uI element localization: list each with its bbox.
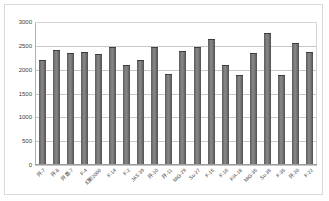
y-axis-tick-label: 3000 (4, 19, 32, 25)
bar[interactable] (292, 43, 299, 165)
bar-slot (134, 22, 148, 165)
y-axis-tick-label: 2000 (4, 67, 32, 73)
bar-slot (218, 22, 232, 165)
bar[interactable] (179, 51, 186, 165)
x-axis-line (35, 164, 317, 165)
x-axis-tick-label: 歼-7 (35, 167, 46, 178)
y-axis-tick-label: 500 (4, 138, 32, 144)
bar-slot (303, 22, 317, 165)
gridline (35, 165, 317, 166)
bar[interactable] (151, 47, 158, 165)
x-axis-tick-label: F/A-18 (229, 167, 244, 182)
y-axis-tick-label: 2500 (4, 43, 32, 49)
x-axis-tick-label: F-35 (274, 167, 286, 179)
y-axis-tick-label: 1000 (4, 114, 32, 120)
bar-slot (176, 22, 190, 165)
bar-series (35, 22, 317, 165)
y-axis-tick-label: 0 (4, 162, 32, 168)
x-axis-tick-label: F-4 (79, 167, 89, 177)
bar[interactable] (306, 52, 313, 165)
x-axis-tick-label: MiG-35 (242, 167, 258, 183)
x-axis-tick-label: 歼-20 (287, 167, 300, 180)
bar-slot (49, 22, 63, 165)
bar-slot (246, 22, 260, 165)
bar[interactable] (81, 52, 88, 165)
bar[interactable] (250, 53, 257, 165)
x-axis-labels: 歼-7歼-8歼轰-7F-4幻影2000F-14F-2JAS 39歼-10歼-11… (35, 167, 317, 201)
x-axis-tick-label: F-14 (105, 167, 117, 179)
bar[interactable] (109, 47, 116, 165)
x-axis-tick-label: JAS 39 (129, 167, 145, 183)
bar-slot (190, 22, 204, 165)
y-axis: 050010001500200025003000 (5, 22, 32, 165)
x-axis-tick-label: F-15 (204, 167, 216, 179)
bar-slot (289, 22, 303, 165)
x-axis-tick-label: 歼轰-7 (60, 167, 74, 181)
bar[interactable] (278, 75, 285, 165)
bar-slot (261, 22, 275, 165)
bar[interactable] (208, 39, 215, 165)
bar[interactable] (236, 75, 243, 165)
bar[interactable] (137, 60, 144, 165)
bar[interactable] (123, 65, 130, 165)
bar[interactable] (53, 50, 60, 165)
y-axis-tick-label: 1500 (4, 91, 32, 97)
x-axis-tick-label: F-2 (121, 167, 131, 177)
x-axis-tick-label: MiG-29 (171, 167, 187, 183)
x-axis-tick-label: 歼-10 (146, 167, 159, 180)
bar[interactable] (95, 54, 102, 165)
bar-slot (35, 22, 49, 165)
bar[interactable] (67, 53, 74, 165)
plot-area (35, 22, 317, 165)
x-axis-tick-label: F-22 (303, 167, 315, 179)
bar-slot (63, 22, 77, 165)
bar-slot (232, 22, 246, 165)
bar-slot (105, 22, 119, 165)
x-axis-tick-label: Su-35 (258, 167, 272, 181)
x-axis-tick-label: Su-27 (188, 167, 202, 181)
bar-slot (148, 22, 162, 165)
bar[interactable] (222, 65, 229, 165)
bar[interactable] (39, 60, 46, 165)
chart-frame: 050010001500200025003000 歼-7歼-8歼轰-7F-4幻影… (4, 4, 323, 195)
bar-slot (77, 22, 91, 165)
bar[interactable] (165, 74, 172, 165)
bar-slot (275, 22, 289, 165)
bar-slot (91, 22, 105, 165)
bar[interactable] (264, 33, 271, 165)
bar-slot (204, 22, 218, 165)
bar[interactable] (194, 47, 201, 165)
bar-slot (162, 22, 176, 165)
bar-slot (120, 22, 134, 165)
